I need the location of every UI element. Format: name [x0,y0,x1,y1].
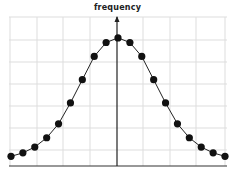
data-point [19,149,26,156]
data-point [162,99,169,106]
data-point [221,153,228,160]
data-point [103,39,110,46]
data-series [7,34,228,160]
data-point [150,76,157,83]
data-point [138,53,145,60]
data-point [7,153,14,160]
data-point [210,149,217,156]
data-point [31,143,38,150]
data-point [91,53,98,60]
data-point [67,99,74,106]
data-point [79,76,86,83]
data-point [114,34,121,41]
data-point [186,134,193,141]
data-point [198,143,205,150]
data-point [55,120,62,127]
data-point [126,39,133,46]
data-point [174,120,181,127]
frequency-chart [0,0,235,176]
data-point [43,134,50,141]
